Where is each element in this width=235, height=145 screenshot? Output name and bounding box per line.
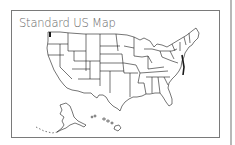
map-card[interactable]: Standard US Map: [11, 10, 220, 138]
aleutian-islands: [36, 127, 58, 133]
alaska-inset: [57, 103, 86, 132]
puget-sound-detail: [49, 32, 51, 37]
scrollbar[interactable]: [230, 0, 232, 145]
us-states-map: [12, 11, 219, 137]
contiguous-us-outline: [47, 28, 199, 111]
hawaii-inset: [91, 115, 121, 131]
